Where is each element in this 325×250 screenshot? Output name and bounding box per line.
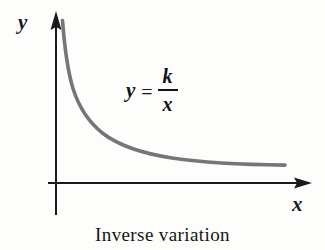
fraction-denominator: x [161, 94, 175, 115]
fraction-numerator: k [161, 66, 175, 87]
fraction-bar [158, 89, 178, 91]
x-axis-label: x [292, 194, 303, 215]
inverse-variation-figure: y x y = k x Inverse variation [0, 0, 325, 250]
equation-lhs: y [126, 80, 135, 101]
equation-operator: = [141, 82, 152, 102]
equation-fraction: k x [158, 66, 178, 115]
y-axis-label: y [18, 12, 27, 33]
plot-area [0, 0, 325, 250]
figure-caption: Inverse variation [0, 224, 325, 246]
equation-annotation: y = k x [126, 66, 178, 115]
